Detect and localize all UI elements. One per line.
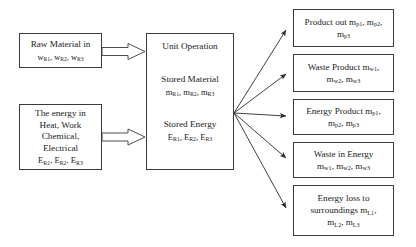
- waste-in-energy-line2: mw1, mw2, mw3: [317, 161, 370, 172]
- stored-energy-group: Stored Energy ER1, ER2, ER3: [147, 119, 233, 142]
- raw-material-label: Raw Material in: [31, 39, 91, 50]
- energy-loss-line2: surroundings mL1,: [311, 205, 377, 216]
- output-box-energy-product: Energy Product mp1, mp2, mp3: [293, 99, 394, 135]
- energy-loss-line1: Energy loss to: [318, 193, 370, 204]
- unit-operation-title: Unit Operation: [147, 41, 233, 52]
- arrow-unit-operation-to-product-out: [234, 30, 286, 113]
- output-box-waste-product: Waste Product mw1, mw2, mw3: [293, 54, 394, 92]
- energy-product-line1: Energy Product mp1,: [306, 106, 380, 117]
- process-box-unit-operation: Unit Operation Stored Material mR1, mR2,…: [146, 33, 234, 170]
- product-out-line1: Product out mp1, mp2,: [305, 17, 383, 28]
- arrow-unit-operation-to-waste-product: [234, 74, 286, 113]
- energy-in-label-line3: Chemical,: [42, 131, 80, 142]
- waste-product-line1: Waste Product mw1,: [308, 62, 380, 73]
- stored-material-label: Stored Material: [147, 74, 233, 85]
- arrow-unit-operation-to-energy-loss: [234, 113, 286, 208]
- stored-material-symbols: mR1, mR2, mR3: [147, 87, 233, 97]
- input-box-raw-material: Raw Material in wR1, wR2, wR3: [19, 33, 102, 68]
- diagram-canvas: Raw Material in wR1, wR2, wR3 The energy…: [0, 0, 416, 247]
- arrow-unit-operation-to-energy-product: [234, 113, 286, 116]
- output-box-product-out: Product out mp1, mp2, mp3: [293, 9, 394, 47]
- energy-product-line2: mp2, mp3: [328, 118, 359, 129]
- input-box-energy-in: The energy in Heat, Work Chemical, Elect…: [19, 104, 102, 170]
- energy-loss-line3: mL2, mL3: [327, 217, 359, 228]
- energy-in-label-line2: Heat, Work: [40, 120, 82, 131]
- stored-material-group: Stored Material mR1, mR2, mR3: [147, 74, 233, 97]
- stored-energy-label: Stored Energy: [147, 119, 233, 130]
- energy-in-label-line1: The energy in: [35, 108, 86, 119]
- output-box-waste-in-energy: Waste in Energy mw1, mw2, mw3: [293, 142, 394, 178]
- output-box-energy-loss: Energy loss to surroundings mL1, mL2, mL…: [293, 185, 394, 236]
- energy-in-symbols: ER1, ER2, ER3: [38, 155, 83, 165]
- waste-in-energy-line1: Waste in Energy: [314, 149, 374, 160]
- arrow-unit-operation-to-waste-in-energy: [234, 113, 286, 158]
- stored-energy-symbols: ER1, ER2, ER3: [147, 132, 233, 142]
- energy-in-label-line4: Electrical: [43, 143, 78, 154]
- arrow-raw-material-to-unit-operation: [102, 44, 145, 60]
- raw-material-symbols: wR1, wR2, wR3: [37, 53, 83, 63]
- product-out-line2: mp3: [337, 29, 350, 40]
- waste-product-line2: mw2, mw3: [327, 74, 361, 85]
- arrow-energy-in-to-unit-operation: [102, 129, 145, 145]
